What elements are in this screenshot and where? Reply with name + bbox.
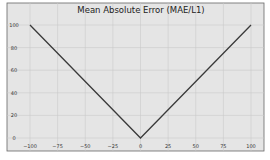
y-tick-label: 40 — [11, 90, 17, 96]
x-tick-label: 100 — [246, 143, 256, 149]
y-tick-label: 0 — [12, 135, 15, 141]
y-tick-label: 100 — [9, 22, 19, 28]
x-tick-label: 50 — [193, 143, 199, 149]
x-tick-label: −75 — [52, 143, 63, 149]
x-tick-label: 75 — [220, 143, 226, 149]
x-tick-label: −25 — [108, 143, 119, 149]
y-tick-label: 20 — [11, 112, 17, 118]
x-tick-label: 0 — [139, 143, 142, 149]
x-axis-ticks: −100−75−50−250255075100 — [23, 143, 256, 149]
y-tick-label: 60 — [11, 67, 17, 73]
chart-title: Mean Absolute Error (MAE/L1) — [77, 5, 204, 15]
chart: Mean Absolute Error (MAE/L1) 02040608010… — [0, 0, 270, 160]
x-tick-label: −50 — [80, 143, 91, 149]
y-tick-label: 80 — [11, 45, 17, 51]
x-tick-label: 25 — [165, 143, 171, 149]
x-tick-label: −100 — [23, 143, 37, 149]
